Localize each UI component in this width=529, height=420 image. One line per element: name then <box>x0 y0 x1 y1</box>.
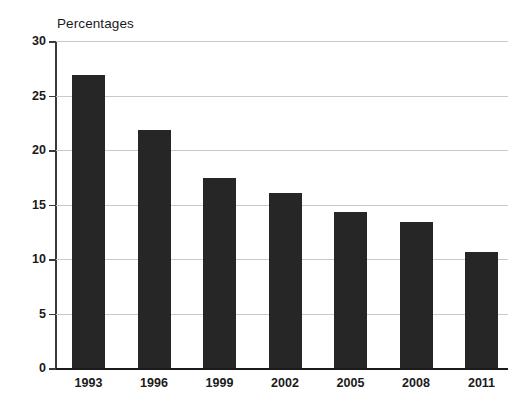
y-tick-mark <box>49 41 56 43</box>
x-tick-label: 2011 <box>468 376 495 390</box>
y-axis-tick-labels: 051015202530 <box>0 0 46 420</box>
y-tick-mark <box>49 205 56 207</box>
y-tick-label: 5 <box>39 307 46 321</box>
y-tick-mark <box>49 368 56 370</box>
y-tick-label: 30 <box>32 34 46 48</box>
x-tick-label: 2008 <box>402 376 430 390</box>
y-tick-label: 20 <box>32 143 46 157</box>
x-axis-baseline <box>55 368 508 370</box>
y-tick-label: 15 <box>32 198 46 212</box>
bar <box>465 252 498 368</box>
y-tick-label: 25 <box>32 89 46 103</box>
gridline <box>55 150 508 151</box>
x-tick-label: 2005 <box>337 376 365 390</box>
plot-area <box>55 41 508 368</box>
x-tick-label: 2002 <box>271 376 299 390</box>
bar <box>72 75 105 368</box>
gridline <box>55 96 508 97</box>
x-tick-label: 1999 <box>206 376 234 390</box>
y-tick-mark <box>49 259 56 261</box>
x-tick-label: 1996 <box>140 376 168 390</box>
gridline <box>55 41 508 42</box>
x-tick-label: 1993 <box>75 376 103 390</box>
y-tick-label: 10 <box>32 252 46 266</box>
bar-chart: Percentages 051015202530 199319961999200… <box>0 0 529 420</box>
bar <box>203 178 236 368</box>
x-axis-tick-labels: 1993199619992002200520082011 <box>55 376 508 400</box>
bar <box>138 130 171 368</box>
bar <box>269 193 302 368</box>
chart-title: Percentages <box>57 16 134 31</box>
y-tick-label: 0 <box>39 361 46 375</box>
y-tick-mark <box>49 96 56 98</box>
y-tick-mark <box>49 314 56 316</box>
bar <box>334 212 367 368</box>
bar <box>400 222 433 368</box>
y-tick-mark <box>49 150 56 152</box>
